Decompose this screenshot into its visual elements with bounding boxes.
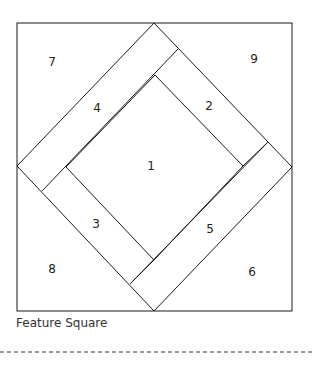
piece-label-7: 7: [48, 55, 56, 69]
seam-strip-4: [42, 49, 178, 191]
piece-label-6: 6: [248, 265, 256, 279]
piece-label-3: 3: [92, 217, 100, 231]
piece-label-8: 8: [48, 262, 56, 276]
diagram-caption: Feature Square: [16, 316, 107, 330]
piece-label-9: 9: [250, 52, 258, 66]
piece-label-2: 2: [205, 99, 213, 113]
piece-label-4: 4: [93, 101, 101, 115]
piece-label-5: 5: [206, 222, 214, 236]
piece-label-1: 1: [147, 159, 155, 173]
